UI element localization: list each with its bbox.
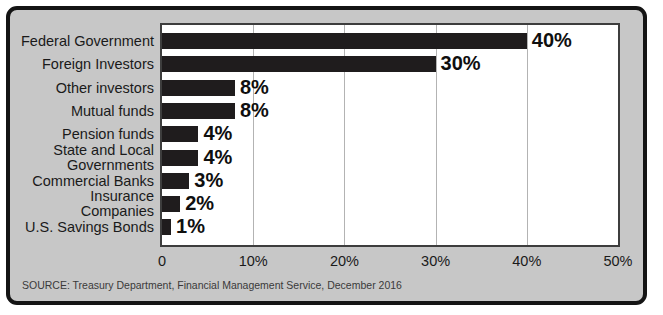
chart-panel: SOURCE: Treasury Department, Financial M…	[6, 6, 647, 305]
category-label: Foreign Investors	[14, 57, 154, 72]
value-label: 30%	[441, 52, 481, 75]
x-axis-tick: 50%	[588, 253, 648, 269]
value-label: 2%	[185, 192, 214, 215]
bar	[162, 173, 189, 189]
bar	[162, 196, 180, 212]
value-label: 3%	[194, 169, 223, 192]
category-label: State and Local Governments	[14, 143, 154, 173]
category-label: Federal Government	[14, 34, 154, 49]
category-label: Pension funds	[14, 127, 154, 142]
gridline	[527, 25, 528, 245]
source-note: SOURCE: Treasury Department, Financial M…	[22, 279, 402, 291]
category-label: Other investors	[14, 80, 154, 95]
bar	[162, 219, 171, 235]
x-axis-tick: 40%	[497, 253, 557, 269]
x-axis-tick: 20%	[314, 253, 374, 269]
value-label: 40%	[532, 29, 572, 52]
category-label: Commercial Banks	[14, 173, 154, 188]
bar	[162, 80, 235, 96]
value-label: 8%	[240, 76, 269, 99]
gridline	[436, 25, 437, 245]
bar	[162, 33, 527, 49]
category-label: Mutual funds	[14, 103, 154, 118]
bar	[162, 150, 198, 166]
bar	[162, 103, 235, 119]
value-label: 8%	[240, 99, 269, 122]
value-label: 4%	[203, 122, 232, 145]
x-axis-tick: 0	[132, 253, 192, 269]
value-label: 4%	[203, 146, 232, 169]
value-label: 1%	[176, 215, 205, 238]
x-axis-tick: 30%	[406, 253, 466, 269]
bar	[162, 126, 198, 142]
category-label: Insurance Companies	[14, 189, 154, 219]
bar	[162, 56, 436, 72]
category-label: U.S. Savings Bonds	[14, 220, 154, 235]
x-axis-tick: 10%	[223, 253, 283, 269]
